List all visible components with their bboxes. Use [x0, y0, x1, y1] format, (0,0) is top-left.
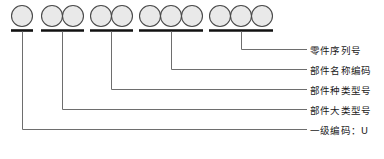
label-component-name-code: 部件名称编码	[310, 65, 371, 76]
label-primary-code: 一级编码：U	[310, 125, 368, 136]
leader-line-group-1	[23, 32, 308, 130]
leader-line-group-5	[242, 32, 308, 50]
leader-line-group-2	[63, 32, 308, 110]
diagram-canvas: 零件序列号 部件名称编码 部件种类型号 部件大类型号 一级编码：U	[0, 0, 384, 159]
code-circle	[252, 6, 273, 27]
code-circle	[231, 6, 252, 27]
code-circle	[140, 6, 161, 27]
code-circle	[210, 6, 231, 27]
label-serial-number: 零件序列号	[310, 45, 361, 56]
code-circle	[63, 6, 84, 27]
code-circle	[42, 6, 63, 27]
leader-line-group-3	[112, 32, 308, 90]
code-circle	[12, 6, 33, 27]
code-circle	[161, 6, 182, 27]
label-component-category-model: 部件种类型号	[310, 85, 371, 96]
label-component-major-class-model: 部件大类型号	[310, 105, 371, 116]
code-circle	[182, 6, 203, 27]
circle-row	[12, 6, 273, 27]
code-circle	[91, 6, 112, 27]
code-circle	[112, 6, 133, 27]
leader-line-group-4	[172, 32, 308, 70]
